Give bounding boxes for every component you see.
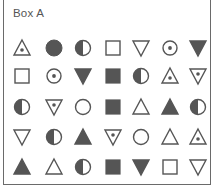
square-icon [11, 65, 33, 87]
triangle-dot-icon [187, 126, 209, 148]
circle-filled-icon [43, 37, 65, 59]
triangle-filled-icon [11, 156, 33, 178]
triangle-down-dot-icon [102, 126, 124, 148]
circle-half-icon [130, 65, 152, 87]
triangle-down-filled-icon [130, 156, 152, 178]
triangle-filled-icon [72, 126, 94, 148]
triangle-down-dot-icon [43, 96, 65, 118]
square-filled-icon [102, 96, 124, 118]
circle-half-icon [43, 126, 65, 148]
circle-icon [72, 96, 94, 118]
triangle-down-icon [11, 126, 33, 148]
circle-dot-icon [43, 65, 65, 87]
triangle-down-filled-icon [187, 37, 209, 59]
square-icon [159, 156, 181, 178]
circle-half-icon [72, 37, 94, 59]
triangle-filled-icon [159, 96, 181, 118]
triangle-down-icon [187, 156, 209, 178]
triangle-icon [43, 156, 65, 178]
triangle-down-filled-icon [72, 65, 94, 87]
square-filled-icon [102, 156, 124, 178]
triangle-icon [130, 96, 152, 118]
triangle-down-icon [130, 37, 152, 59]
circle-half-icon [11, 96, 33, 118]
triangle-icon [159, 126, 181, 148]
square-icon [102, 37, 124, 59]
square-filled-icon [102, 65, 124, 87]
triangle-dot-icon [159, 65, 181, 87]
triangle-down-dot-icon [187, 65, 209, 87]
circle-dot-icon [159, 37, 181, 59]
circle-half-icon [187, 96, 209, 118]
circle-icon [130, 126, 152, 148]
circle-half-icon [72, 156, 94, 178]
triangle-dot-icon [11, 37, 33, 59]
shape-grid [0, 0, 216, 189]
